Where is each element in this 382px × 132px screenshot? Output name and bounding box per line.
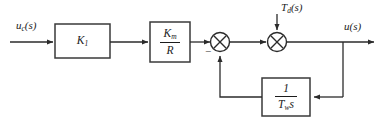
km-over-r-denominator: R xyxy=(160,43,179,56)
block-diagram: uc(s) Td(s) u(s) K1 Km R 1 Tws − xyxy=(0,0,382,132)
feedback-denominator: Tws xyxy=(275,97,297,112)
output-signal-arg: (s) xyxy=(350,20,362,32)
block-k1-subscript: 1 xyxy=(84,39,88,48)
diagram-canvas xyxy=(0,0,382,132)
wire-feedback-to-summer1 xyxy=(220,56,262,97)
feedback-denominator-tail: s xyxy=(289,98,293,110)
block-km-over-r-label: Km R xyxy=(150,22,190,62)
km-numerator-subscript: m xyxy=(171,33,176,42)
summer-1-minus-sign: − xyxy=(205,46,211,57)
input-signal-arg: (s) xyxy=(25,19,37,31)
input-signal-label: uc(s) xyxy=(16,20,36,33)
block-k1-label: K1 xyxy=(55,24,110,58)
km-numerator-base: K xyxy=(163,27,171,39)
disturbance-signal-label: Td(s) xyxy=(281,2,302,15)
km-over-r-numerator: Km xyxy=(160,27,179,43)
output-signal-label: u(s) xyxy=(344,21,361,32)
feedback-numerator: 1 xyxy=(275,82,297,96)
disturbance-signal-arg: (s) xyxy=(291,1,303,13)
block-feedback-label: 1 Tws xyxy=(262,78,310,116)
km-over-r-fraction: Km R xyxy=(160,27,179,56)
feedback-fraction: 1 Tws xyxy=(275,82,297,111)
